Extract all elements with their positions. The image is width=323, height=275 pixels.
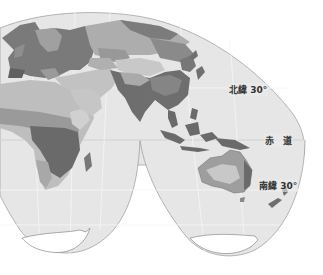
equator-label: 赤 道 bbox=[264, 134, 293, 147]
latitude-label-south-30: 南緯 30° bbox=[258, 179, 298, 192]
latitude-label-north-30: 北緯 30° bbox=[228, 83, 268, 96]
